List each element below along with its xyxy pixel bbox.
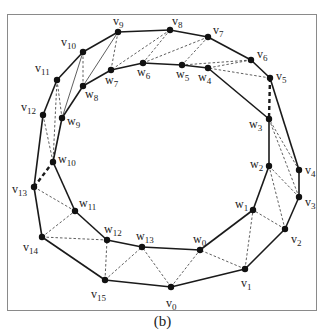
inner-edge-w4-w5 [182, 65, 208, 68]
label-w12: w12 [104, 222, 122, 238]
dashed-edge-v14-w12 [42, 237, 107, 240]
label-v5: v5 [276, 69, 287, 85]
node-w9 [59, 115, 65, 121]
label-w13: w13 [136, 229, 154, 245]
node-w2 [266, 163, 272, 169]
node-w1 [250, 207, 256, 213]
label-v10: v10 [61, 35, 77, 51]
dashed-edge-v8-w6 [143, 30, 170, 63]
thin-edge-w9-v10 [62, 52, 83, 118]
graph-diagram: v0v1v2v3v4v5v6v7v8v9v10v11v12v13v14v15w0… [0, 0, 325, 335]
dashed-edge-v15-w12 [105, 240, 107, 280]
node-w10 [50, 159, 56, 165]
dashed-edge-v15-w13 [105, 247, 142, 280]
node-v7 [205, 34, 211, 40]
dashed-edge-v11-w9 [57, 80, 62, 118]
outer-edge-v13-v14 [34, 187, 42, 237]
dashed-edge-v3-w2 [269, 166, 299, 197]
node-v12 [40, 112, 46, 118]
outer-edge-v15-v0 [105, 280, 171, 287]
dashed-edge-v7-w5 [182, 37, 208, 65]
outer-edge-v9-v10 [83, 32, 118, 52]
node-labels: v0v1v2v3v4v5v6v7v8v9v10v11v12v13v14v15w0… [12, 14, 316, 312]
node-v6 [248, 57, 254, 63]
label-v9: v9 [113, 14, 124, 30]
dashed-edge-v14-w11 [42, 211, 75, 237]
dashed-edge-v7-w6 [143, 37, 208, 63]
label-w11: w11 [79, 196, 96, 212]
outer-edge-v7-v8 [170, 30, 208, 37]
label-v14: v14 [23, 240, 39, 256]
outer-edge-v2-v3 [285, 197, 299, 229]
node-w11 [72, 208, 78, 214]
inner-edge-w0-w1 [200, 210, 253, 250]
label-w3: w3 [249, 117, 263, 133]
outer-edge-v4-v5 [270, 78, 299, 170]
node-v13 [31, 184, 37, 190]
label-w9: w9 [67, 114, 81, 130]
dashed-edge-v1-w0 [200, 250, 245, 269]
label-w10: w10 [58, 152, 76, 168]
label-v4: v4 [305, 163, 316, 179]
outer-edge-v12-v13 [34, 115, 43, 187]
node-v11 [54, 77, 60, 83]
label-v11: v11 [35, 61, 50, 77]
node-v4 [296, 167, 302, 173]
node-w3 [266, 116, 272, 122]
label-v1: v1 [241, 276, 252, 292]
label-w4: w4 [198, 70, 212, 86]
label-w7: w7 [105, 73, 119, 89]
node-v14 [39, 234, 45, 240]
dashed-edge-v6-w4 [208, 60, 251, 68]
node-v0 [168, 284, 174, 290]
label-v12: v12 [21, 100, 36, 116]
outer-edge-v11-v12 [43, 80, 57, 115]
label-v15: v15 [91, 287, 107, 303]
dashed-edge-v2-w2 [269, 166, 285, 229]
label-v6: v6 [257, 47, 268, 63]
label-w0: w0 [193, 232, 207, 248]
label-v0: v0 [166, 296, 177, 312]
node-v3 [296, 194, 302, 200]
outer-edge-v14-v15 [42, 237, 105, 280]
label-w6: w6 [137, 65, 151, 81]
dashed-edge-v4-w3 [269, 119, 299, 170]
label-v7: v7 [213, 23, 224, 39]
outer-edge-v10-v11 [57, 52, 83, 80]
outer-edge-v1-v2 [245, 229, 285, 269]
inner-edge-w10-w11 [53, 162, 75, 211]
dashed-edge-v2-w1 [253, 210, 285, 229]
label-w2: w2 [250, 157, 263, 173]
node-v10 [80, 49, 86, 55]
node-v1 [242, 266, 248, 272]
dashed-edge-v1-w1 [245, 210, 253, 269]
node-v5 [267, 75, 273, 81]
label-v3: v3 [305, 195, 316, 211]
dashed-edge-v0-w13 [142, 247, 171, 287]
outer-edge-v6-v7 [208, 37, 251, 60]
thick-dashed-edge-v5-w3 [269, 78, 270, 119]
label-v13: v13 [12, 182, 28, 198]
dashed-edge-v12-w10 [43, 115, 53, 162]
outer-edge-v0-v1 [171, 269, 245, 287]
outer-edge-v8-v9 [118, 30, 170, 32]
node-w12 [104, 237, 110, 243]
node-v15 [102, 277, 108, 283]
label-v8: v8 [172, 14, 183, 30]
dashed-edge-v6-w5 [182, 60, 251, 65]
label-w5: w5 [176, 67, 190, 83]
inner-edge-w3-w4 [208, 68, 269, 119]
node-v2 [282, 226, 288, 232]
label-v2: v2 [291, 232, 302, 248]
label-w1: w1 [235, 197, 248, 213]
inner-edge-w13-w0 [142, 247, 200, 250]
label-w8: w8 [85, 87, 99, 103]
inner-edge-w11-w12 [75, 211, 107, 240]
inner-edge-w5-w6 [143, 63, 182, 65]
figure-caption: (b) [0, 313, 325, 330]
